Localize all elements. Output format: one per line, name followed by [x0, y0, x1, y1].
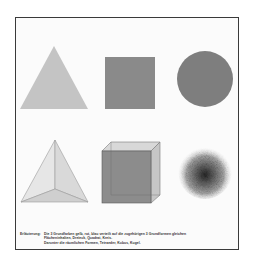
triangle-shape: [20, 46, 88, 109]
tetrahedron-shape: [21, 140, 88, 202]
caption-label: Erläuterung:: [20, 232, 44, 236]
square-shape: [105, 57, 155, 109]
circle-shape: [177, 51, 233, 107]
sphere-shape: [178, 145, 232, 199]
caption: Erläuterung: Die 3 Grundfarben gelb, rot…: [20, 232, 235, 245]
caption-line-3: Darunter die räumlichen Formen, Tetraede…: [20, 241, 235, 245]
cube-shape: [102, 142, 160, 203]
shapes-illustration: [0, 0, 254, 268]
